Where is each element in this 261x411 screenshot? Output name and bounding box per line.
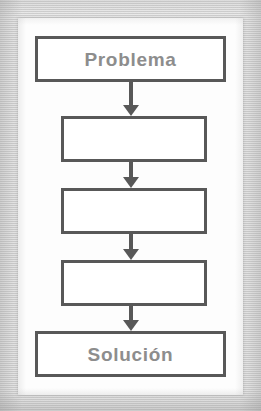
- arrow-head-down-icon: [123, 177, 139, 188]
- arrow-head-down-icon: [123, 249, 139, 260]
- arrow-shaft: [129, 82, 133, 105]
- white-paper-panel: Problema: [18, 18, 243, 395]
- image-canvas: Problema: [0, 0, 261, 411]
- flow-arrow-1: [123, 82, 139, 116]
- flow-node-step-1[interactable]: [61, 116, 207, 162]
- flow-node-solucion-label: Solución: [88, 345, 174, 364]
- flow-node-step-3[interactable]: [61, 260, 207, 306]
- flowchart-diagram: Problema: [18, 18, 243, 395]
- flow-node-problema[interactable]: Problema: [35, 36, 226, 82]
- flow-node-solucion[interactable]: Solución: [35, 331, 226, 377]
- arrow-shaft: [129, 234, 133, 249]
- flow-arrow-2: [123, 162, 139, 188]
- flow-arrow-4: [123, 306, 139, 331]
- flow-arrow-3: [123, 234, 139, 260]
- arrow-shaft: [129, 306, 133, 320]
- flow-node-problema-label: Problema: [84, 50, 176, 69]
- flow-node-step-2[interactable]: [61, 188, 207, 234]
- arrow-head-down-icon: [123, 320, 139, 331]
- arrow-head-down-icon: [123, 105, 139, 116]
- arrow-shaft: [129, 162, 133, 177]
